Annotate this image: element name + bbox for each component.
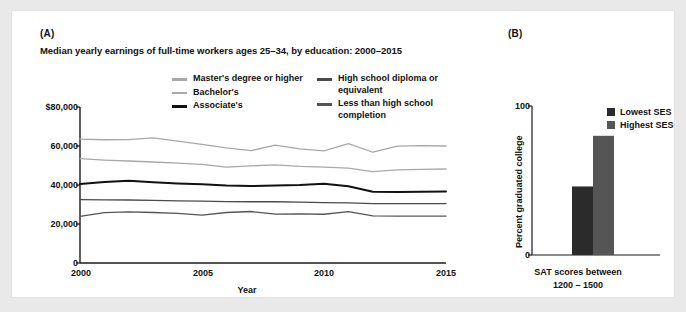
- panel-a-ytick-0: $80,000: [26, 102, 78, 112]
- panel-a-ytick-3: 20,000: [26, 219, 78, 229]
- panel-b-yaxis-title: Percent graduated college: [514, 135, 524, 248]
- bar-lowest-ses: [572, 186, 593, 255]
- panel-b-ytick-0: 0: [494, 250, 530, 260]
- figure-root: (A) Median yearly earnings of full-time …: [0, 0, 686, 312]
- panel-a-xaxis-title: Year: [12, 285, 482, 295]
- panel-a: (A) Median yearly earnings of full-time …: [12, 11, 482, 297]
- panel-b-xaxis-title-line2: 1200 – 1500: [482, 280, 674, 290]
- panel-a-xtick-2000: 2000: [59, 268, 103, 278]
- panel-a-plot: [12, 11, 482, 297]
- panel-b-ytick-100: 100: [494, 101, 530, 111]
- panel-a-ytick-4: 0: [26, 258, 78, 268]
- panel-a-xtick-2005: 2005: [181, 268, 225, 278]
- panel-a-xtick-2010: 2010: [302, 268, 346, 278]
- panel-b: (B) Lowest SES Highest SES 100 0 Percent…: [482, 11, 674, 297]
- figure-card: (A) Median yearly earnings of full-time …: [12, 11, 674, 297]
- panel-a-ytick-2: 40,000: [26, 180, 78, 190]
- panel-a-ytick-1: 60,000: [26, 141, 78, 151]
- bar-highest-ses: [593, 136, 614, 255]
- panel-a-xtick-2015: 2015: [424, 268, 468, 278]
- panel-b-xaxis-title-line1: SAT scores between: [482, 267, 674, 277]
